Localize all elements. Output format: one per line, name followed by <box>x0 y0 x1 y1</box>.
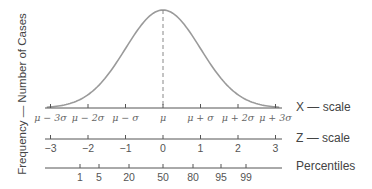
tick-label: −1 <box>120 142 132 154</box>
tick-label: 2 <box>235 142 241 154</box>
tick-label: −3 <box>45 142 57 154</box>
tick-label: −2 <box>82 142 94 154</box>
tick-label: μ <box>160 112 166 123</box>
z-scale-ticks <box>51 135 276 139</box>
tick-label: μ + 2σ <box>222 112 255 123</box>
tick-label: μ + σ <box>187 112 214 123</box>
tick-label: μ − 2σ <box>72 112 105 123</box>
tick-label: μ − σ <box>112 112 139 123</box>
tick-label: μ + 3σ <box>259 112 292 123</box>
tick-label: 1 <box>77 171 83 183</box>
x-scale-ticks <box>51 104 276 108</box>
percentiles-label: Percentiles <box>296 159 355 173</box>
tick-label: 50 <box>157 171 169 183</box>
tick-label: 80 <box>187 171 199 183</box>
tick-label: μ − 3σ <box>34 112 67 123</box>
percentile-ticks <box>80 164 246 168</box>
x-scale-label: X — scale <box>296 100 351 114</box>
tick-label: 5 <box>96 171 102 183</box>
tick-label: 0 <box>160 142 166 154</box>
tick-label: 99 <box>240 171 252 183</box>
tick-label: 1 <box>198 142 204 154</box>
z-scale-label: Z — scale <box>296 131 350 145</box>
tick-label: 3 <box>273 142 279 154</box>
tick-label: 20 <box>123 171 135 183</box>
tick-label: 95 <box>215 171 227 183</box>
